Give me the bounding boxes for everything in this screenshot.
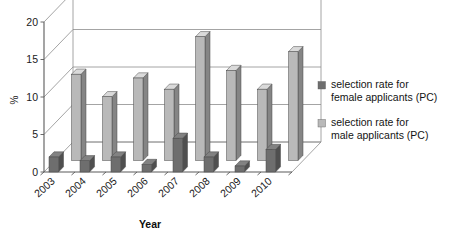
bar-female-2010 — [266, 144, 281, 172]
bar-male-2007 — [196, 32, 211, 161]
bar-front-face — [165, 89, 175, 160]
y-tick-label: 5 — [32, 128, 38, 140]
x-tick-labels-group: 20032004200520062007200820092010 — [32, 175, 275, 200]
bar-front-face — [227, 71, 237, 161]
legend-entry-0: selection rate forfemale applicants (PC) — [318, 78, 437, 103]
y-tick-label: 15 — [26, 53, 38, 65]
bar-front-face — [103, 97, 113, 161]
gridline-depth — [44, 105, 73, 135]
legend-swatch — [318, 120, 326, 128]
gridline-depth — [44, 0, 73, 22]
bar-side-face — [112, 92, 117, 161]
x-tick-label-2008: 2008 — [187, 175, 213, 200]
bar-female-2008 — [204, 152, 219, 172]
bar-side-face — [205, 32, 210, 161]
y-axis-title: % — [9, 95, 20, 104]
bar-front-face — [80, 161, 90, 172]
legend-swatch — [318, 82, 326, 90]
bar-front-face — [72, 74, 82, 160]
bar-side-face — [298, 47, 303, 161]
y-tick-label: 0 — [32, 166, 38, 178]
bar-front-face — [289, 52, 299, 161]
bar-female-2007 — [173, 133, 188, 172]
gridline-depth — [44, 67, 73, 97]
bar-front-face — [204, 157, 214, 172]
x-tick-label-2004: 2004 — [63, 175, 89, 200]
x-tick-label-2003: 2003 — [32, 175, 58, 200]
legend-label-line2: female applicants (PC) — [331, 91, 437, 103]
bar-front-face — [235, 166, 245, 172]
bar-front-face — [258, 89, 268, 160]
legend-label-line1: selection rate for — [331, 78, 409, 90]
bar-front-face — [111, 157, 121, 172]
bar-male-2008 — [227, 65, 242, 160]
x-tick-label-2010: 2010 — [249, 175, 275, 200]
bar-side-face — [236, 65, 241, 160]
bar-female-2009 — [235, 161, 250, 172]
legend-label-line2: male applicants (PC) — [331, 129, 428, 141]
bar-female-2003 — [49, 152, 64, 172]
x-tick-label-2009: 2009 — [218, 175, 244, 200]
bar-front-face — [134, 78, 144, 161]
gridline-depth — [44, 30, 73, 60]
bar-side-face — [143, 73, 148, 161]
bar-front-face — [173, 138, 183, 172]
legend-entry-1: selection rate formale applicants (PC) — [318, 116, 428, 141]
bar-male-2005 — [134, 73, 149, 161]
x-tick-label-2005: 2005 — [94, 175, 120, 200]
x-tick-label-2006: 2006 — [125, 175, 151, 200]
y-tick-label: 20 — [26, 16, 38, 28]
y-tick-label: 10 — [26, 91, 38, 103]
x-tick-label-2007: 2007 — [156, 175, 182, 200]
bars-group — [49, 32, 303, 172]
bar-front-face — [196, 37, 206, 161]
bar-side-face — [183, 133, 188, 172]
bar-male-2010 — [289, 47, 304, 161]
chart-container: 05101520 2003200420052006200720082009201… — [0, 0, 454, 239]
bar-female-2006 — [142, 159, 157, 172]
bar-female-2005 — [111, 152, 126, 172]
bar-male-2003 — [72, 69, 87, 160]
bar-front-face — [266, 150, 276, 173]
bar-male-2004 — [103, 92, 118, 161]
y-tick-labels-group: 05101520 — [26, 16, 44, 178]
bar-front-face — [142, 165, 152, 173]
legend: selection rate forfemale applicants (PC)… — [318, 78, 437, 141]
bar-side-face — [81, 69, 86, 160]
bar-chart-3d: 05101520 2003200420052006200720082009201… — [0, 0, 454, 239]
x-axis-title: Year — [139, 218, 161, 230]
bar-front-face — [49, 157, 59, 172]
legend-label-line1: selection rate for — [331, 116, 409, 128]
